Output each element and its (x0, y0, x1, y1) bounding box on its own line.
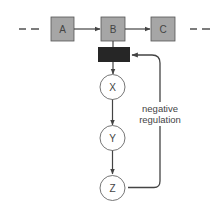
node-b: B (101, 17, 125, 41)
node-z-label: Z (109, 183, 115, 194)
node-b-label: B (110, 24, 117, 35)
branch-point-enzyme (98, 47, 130, 62)
feedback-line-lower (128, 126, 160, 188)
node-x: X (100, 75, 125, 100)
node-c-label: C (159, 24, 166, 35)
node-x-label: X (109, 82, 116, 93)
diagram-canvas: A B C X Y (0, 0, 221, 215)
feedback-label-line2: regulation (139, 114, 181, 125)
node-y-label: Y (109, 133, 116, 144)
node-z: Z (100, 176, 125, 201)
node-c: C (151, 17, 175, 41)
node-a-label: A (59, 24, 66, 35)
node-a: A (51, 17, 74, 41)
feedback-label-line1: negative (142, 103, 178, 114)
feedback-arrow-upper (132, 55, 160, 102)
node-y: Y (100, 126, 125, 151)
